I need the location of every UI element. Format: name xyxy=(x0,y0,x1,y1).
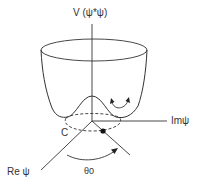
minimum-circle-front xyxy=(65,118,120,131)
potential-profile-curve xyxy=(41,50,147,118)
theta0-label: θ0 xyxy=(84,167,94,176)
potential-surface-drawing xyxy=(0,0,201,187)
re-axis-label: Re ψ xyxy=(7,167,30,177)
v-axis-label: V (ψ*ψ) xyxy=(73,8,107,18)
rim-ellipse xyxy=(41,39,147,61)
angle-arc xyxy=(67,150,116,160)
vacuum-state-dot xyxy=(100,128,105,133)
mexican-hat-diagram: V (ψ*ψ) Imψ Re ψ C θ0 xyxy=(0,0,201,187)
im-axis-label: Imψ xyxy=(171,116,189,126)
circle-c-label: C xyxy=(61,128,68,138)
theta-ray-line xyxy=(92,121,130,155)
